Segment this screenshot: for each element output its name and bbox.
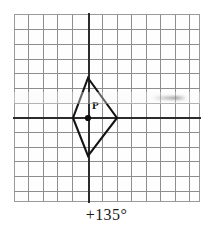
rhombus-shape: [73, 78, 117, 156]
point-p-label: P: [92, 100, 99, 111]
figure-canvas: P +135°: [0, 0, 213, 233]
coordinate-grid: P: [14, 14, 200, 202]
point-p-marker: [85, 115, 91, 121]
figure-caption: +135°: [0, 206, 213, 224]
shape-layer: [14, 14, 200, 202]
